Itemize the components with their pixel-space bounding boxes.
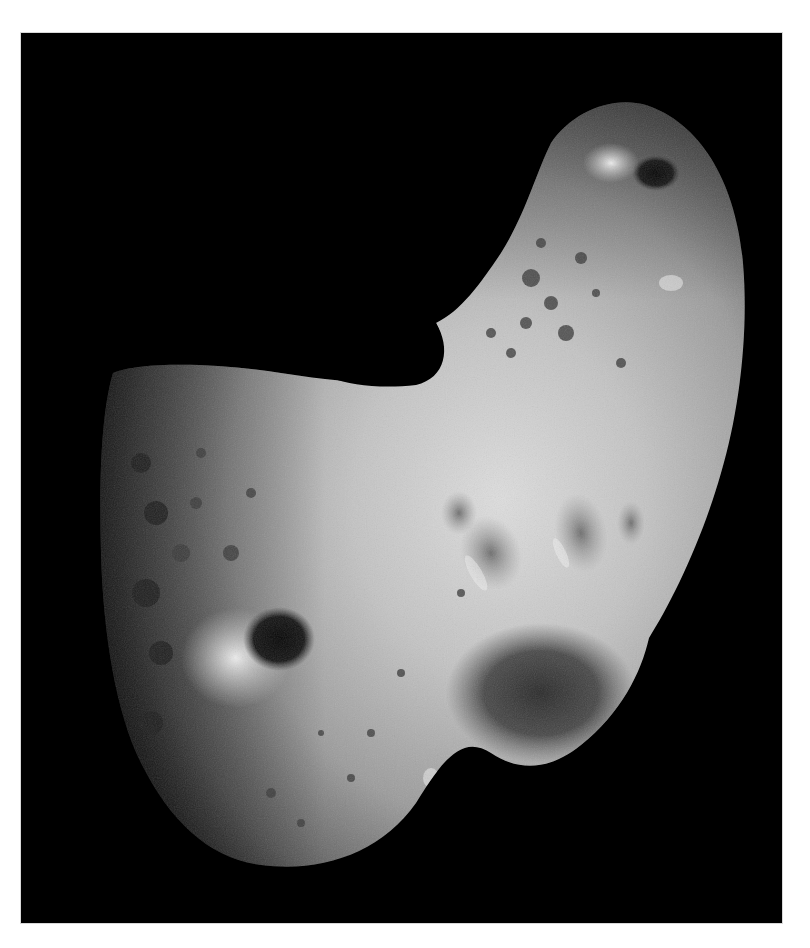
asteroid-illustration bbox=[21, 33, 782, 923]
page: Grayscale photograph of a cratered, elon… bbox=[0, 0, 810, 948]
asteroid-photo: Grayscale photograph of a cratered, elon… bbox=[21, 33, 782, 923]
